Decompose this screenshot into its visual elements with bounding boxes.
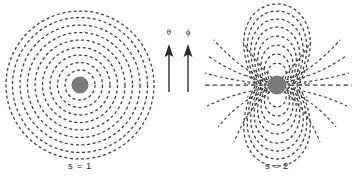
- dipole-loops-lower: [244, 86, 310, 166]
- source-sphere: [72, 77, 88, 93]
- dipole-loop: [244, 86, 310, 166]
- dipole-loop: [244, 4, 310, 84]
- phi-label: ϕ: [180, 27, 196, 37]
- panel-monopole: [6, 11, 154, 159]
- radial-ray: [205, 73, 267, 84]
- panel-dipole: [205, 4, 352, 166]
- field-pattern-figure: θ ϕ s = 1 s = 2: [0, 0, 357, 186]
- caption-s-equals-2: s = 2: [197, 160, 357, 171]
- caption-s-equals-1: s = 1: [0, 160, 160, 171]
- dipole-loop: [258, 88, 297, 134]
- radial-ray: [207, 88, 268, 106]
- figure-canvas: [0, 0, 357, 186]
- dipole-loop: [251, 87, 304, 151]
- dipole-loop: [247, 86, 306, 159]
- theta-label: θ: [161, 27, 177, 37]
- radial-ray: [286, 56, 346, 82]
- radial-ray: [286, 88, 347, 106]
- source-sphere: [268, 76, 286, 94]
- dipole-loop: [258, 36, 297, 82]
- direction-arrows: [165, 44, 193, 92]
- dipole-loop: [247, 11, 306, 84]
- dipole-loops-upper: [244, 4, 310, 84]
- dipole-loop: [251, 19, 304, 83]
